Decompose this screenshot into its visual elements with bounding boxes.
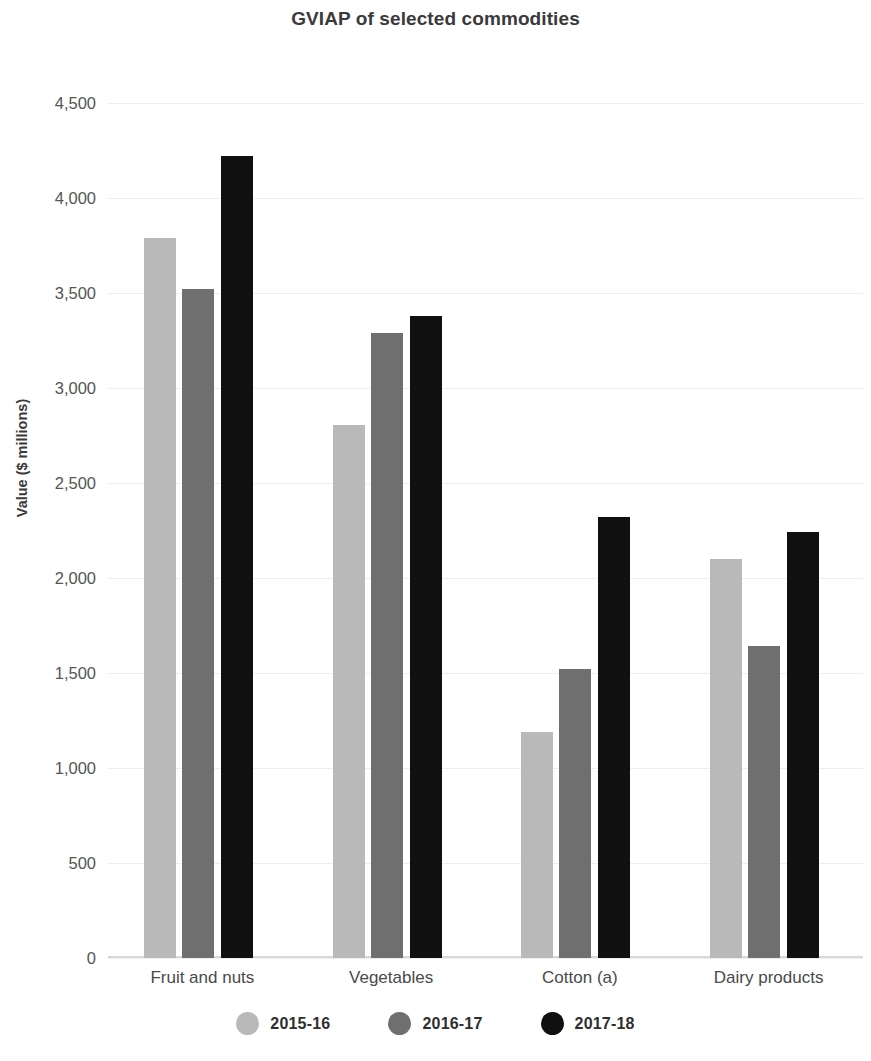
y-axis-tick-label: 2,000 <box>10 569 96 588</box>
y-axis-tick-label: 4,000 <box>10 189 96 208</box>
bar[interactable] <box>221 156 253 958</box>
x-axis-category-label: Vegetables <box>297 968 486 988</box>
legend-item[interactable]: 2016-17 <box>388 1012 482 1035</box>
bar[interactable] <box>182 289 214 958</box>
legend-circle-icon <box>388 1012 411 1035</box>
legend-label: 2017-18 <box>575 1015 635 1033</box>
bar[interactable] <box>371 333 403 958</box>
y-axis-tick-label: 3,000 <box>10 379 96 398</box>
y-axis-tick-labels: 4,5004,0003,5003,0002,5002,0001,5001,000… <box>0 103 96 958</box>
y-axis-tick-label: 1,000 <box>10 759 96 778</box>
bar[interactable] <box>410 316 442 958</box>
y-axis-tick-label: 0 <box>10 949 96 968</box>
bar-group <box>144 103 253 958</box>
bar[interactable] <box>748 646 780 958</box>
y-axis-tick-label: 1,500 <box>10 664 96 683</box>
bar[interactable] <box>598 517 630 958</box>
plot-area <box>108 103 863 958</box>
gridline <box>108 958 863 959</box>
x-axis-category-label: Dairy products <box>674 968 863 988</box>
bar[interactable] <box>559 669 591 958</box>
legend-circle-icon <box>236 1012 259 1035</box>
legend-item[interactable]: 2017-18 <box>541 1012 635 1035</box>
bar[interactable] <box>710 559 742 958</box>
x-axis-category-label: Fruit and nuts <box>108 968 297 988</box>
bar[interactable] <box>787 532 819 958</box>
y-axis-tick-label: 4,500 <box>10 94 96 113</box>
y-axis-tick-label: 2,500 <box>10 474 96 493</box>
bar[interactable] <box>521 732 553 958</box>
chart-legend: 2015-162016-172017-18 <box>0 1012 871 1035</box>
bar-group <box>333 103 442 958</box>
bar[interactable] <box>144 238 176 958</box>
chart-title: GVIAP of selected commodities <box>0 8 871 30</box>
x-axis-category-label: Cotton (a) <box>486 968 675 988</box>
legend-item[interactable]: 2015-16 <box>236 1012 330 1035</box>
legend-circle-icon <box>541 1012 564 1035</box>
bar-group <box>710 103 819 958</box>
chart-container: GVIAP of selected commodities Value ($ m… <box>0 0 871 1061</box>
y-axis-tick-label: 500 <box>10 854 96 873</box>
bar[interactable] <box>333 425 365 958</box>
legend-label: 2015-16 <box>270 1015 330 1033</box>
y-axis-tick-label: 3,500 <box>10 284 96 303</box>
bar-group <box>521 103 630 958</box>
legend-label: 2016-17 <box>422 1015 482 1033</box>
